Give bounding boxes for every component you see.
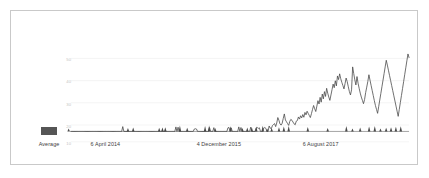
x-tick-label-2: 6 August 2017: [303, 141, 339, 148]
y-tick-label-0: 50: [57, 57, 71, 62]
average-legend: Average: [18, 127, 80, 148]
x-tick-label-1: 4 December 2015: [197, 141, 241, 148]
x-tick-label-0: 6 April 2014: [91, 141, 121, 148]
average-swatch-icon: [41, 127, 57, 135]
y-tick-label-2: 30: [57, 102, 71, 107]
sparkline-trend-panel: 50 40 30 20 10 Average 6 April 2014 4 De…: [10, 10, 418, 165]
chart-baseline-spikes: [67, 125, 402, 131]
chart-series-line: [71, 54, 409, 131]
chart-gridlines: [71, 58, 409, 141]
y-tick-label-1: 40: [57, 79, 71, 84]
average-legend-label: Average: [18, 141, 80, 148]
